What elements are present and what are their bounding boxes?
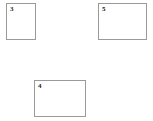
box-4[interactable]: 4 <box>34 80 86 117</box>
box-3-label: 3 <box>10 5 14 13</box>
box-5-label: 5 <box>102 5 106 13</box>
diagram-canvas: 3 5 4 <box>0 0 153 121</box>
box-4-label: 4 <box>38 82 42 90</box>
box-3[interactable]: 3 <box>6 3 36 40</box>
box-5[interactable]: 5 <box>98 3 147 40</box>
